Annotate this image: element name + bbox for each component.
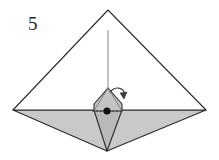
origami-step-figure: 5 bbox=[0, 0, 219, 160]
left-wing-shape bbox=[13, 110, 107, 151]
center-pivot-dot bbox=[103, 107, 110, 114]
right-wing-shape bbox=[107, 110, 206, 151]
step-number-label: 5 bbox=[28, 13, 38, 35]
